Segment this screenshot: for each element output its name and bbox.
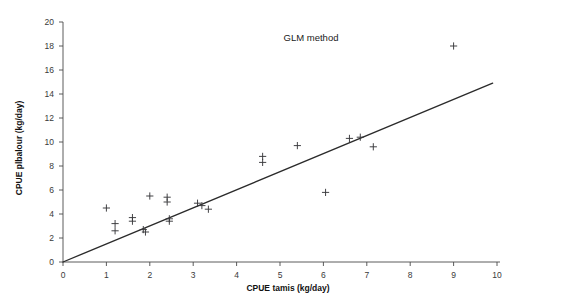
data-point-marker [346, 135, 353, 142]
y-tick-label: 8 [49, 161, 54, 171]
data-point-marker [322, 189, 329, 196]
x-tick-label: 7 [364, 270, 369, 280]
scatter-points [103, 42, 457, 235]
x-axis-title: CPUE tamis (kg/day) [246, 283, 329, 293]
data-point-marker [111, 227, 118, 234]
regression-line-segment [63, 83, 493, 262]
x-tick-label: 8 [408, 270, 413, 280]
x-tick-label: 1 [104, 270, 109, 280]
chart-canvas: GLM method CPUE plbalour (kg/day) CPUE t… [0, 0, 561, 302]
y-tick-label: 20 [45, 17, 55, 27]
y-tick-label: 18 [45, 41, 55, 51]
data-point-marker [164, 198, 171, 205]
x-tick-label: 0 [61, 270, 66, 280]
x-tick-label: 2 [147, 270, 152, 280]
x-tick-label: 6 [321, 270, 326, 280]
x-tick-label: 4 [234, 270, 239, 280]
x-tick-label: 5 [278, 270, 283, 280]
x-axis-ticks: 012345678910 [61, 262, 502, 280]
regression-line [63, 83, 493, 262]
y-tick-label: 2 [49, 233, 54, 243]
data-point-marker [259, 159, 266, 166]
y-tick-label: 12 [45, 113, 55, 123]
data-point-marker [103, 204, 110, 211]
y-axis-ticks: 02468101214161820 [45, 17, 63, 267]
x-tick-label: 10 [492, 270, 502, 280]
x-tick-label: 9 [451, 270, 456, 280]
y-tick-label: 6 [49, 185, 54, 195]
y-axis-title: CPUE plbalour (kg/day) [14, 101, 24, 196]
chart-title: GLM method [284, 32, 339, 43]
data-point-marker [294, 142, 301, 149]
x-tick-label: 3 [191, 270, 196, 280]
y-tick-label: 10 [45, 137, 55, 147]
data-point-marker [370, 143, 377, 150]
data-point-marker [450, 42, 457, 49]
chart-figure: GLM method CPUE plbalour (kg/day) CPUE t… [0, 0, 561, 302]
y-tick-label: 14 [45, 89, 55, 99]
data-point-marker [111, 220, 118, 227]
y-tick-label: 4 [49, 209, 54, 219]
data-point-marker [146, 192, 153, 199]
data-point-marker [205, 206, 212, 213]
y-tick-label: 0 [49, 257, 54, 267]
y-tick-label: 16 [45, 65, 55, 75]
data-point-marker [129, 218, 136, 225]
